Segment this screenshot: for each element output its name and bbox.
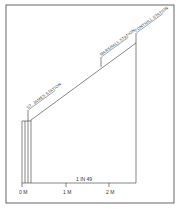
axis-label-2m: 2 M	[106, 189, 114, 195]
gradient-label: 1 IN 49	[76, 176, 92, 182]
axis-label-0m: 0 M	[19, 189, 27, 195]
station-label-st-james: ST. JAMES STATION	[26, 81, 63, 109]
station-label-marshall: MARSHALL STATION	[99, 28, 136, 57]
start-verticals	[22, 120, 31, 183]
station-label-fonthill: FONTHILL STATION	[134, 5, 170, 33]
axis-label-1m: 1 M	[63, 189, 71, 195]
svg-text:FONTHILL STATION: FONTHILL STATION	[134, 5, 170, 33]
gradient-diagram: ST. JAMES STATION MARSHALL STATION FONTH…	[0, 0, 180, 209]
axis-ticks	[22, 183, 109, 187]
svg-text:MARSHALL STATION: MARSHALL STATION	[99, 28, 136, 57]
svg-text:ST. JAMES STATION: ST. JAMES STATION	[26, 81, 63, 109]
gradient-slope-line	[31, 43, 136, 120]
